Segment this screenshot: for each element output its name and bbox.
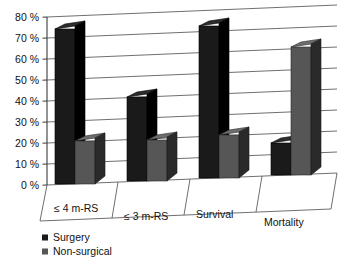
y-tick-label-0: 0 %	[21, 179, 39, 191]
bar-nonsurgical-3	[291, 39, 321, 175]
bar-group-1	[127, 89, 177, 181]
legend-swatch-nonsurgical	[42, 249, 48, 255]
y-tick-label-80: 80 %	[15, 11, 39, 23]
y-tick-label-70: 70 %	[15, 32, 39, 44]
bar-front-face	[55, 29, 75, 184]
bar-front-face	[127, 97, 147, 181]
bar-group-2	[199, 18, 249, 178]
bar-group-3	[271, 39, 321, 175]
category-label-1: ≤ 3 m-RS	[124, 210, 168, 222]
legend-label-nonsurgical: Non-surgical	[53, 245, 112, 257]
legend-item-nonsurgical[interactable]: Non-surgical	[42, 245, 112, 257]
y-axis	[43, 17, 48, 185]
bar-front-face	[291, 47, 311, 175]
bar-front-face	[219, 135, 239, 178]
y-tick-label-60: 60 %	[15, 53, 39, 65]
chart-legend: Surgery Non-surgical	[42, 231, 112, 257]
gridline-70	[47, 26, 337, 38]
y-axis-labels: 80 % 70 % 60 % 50 % 40 % 30 % 20 % 10 % …	[15, 11, 39, 191]
bar-side-face	[239, 127, 249, 178]
legend-swatch-surgery	[42, 235, 48, 241]
y-tick-label-20: 20 %	[15, 137, 39, 149]
y-tick-label-40: 40 %	[15, 95, 39, 107]
legend-item-surgery[interactable]: Surgery	[42, 231, 91, 243]
category-label-0: ≤ 4 m-RS	[54, 202, 98, 214]
bar-chart-3d: 80 % 70 % 60 % 50 % 40 % 30 % 20 % 10 % …	[0, 0, 343, 265]
bar-nonsurgical-1	[147, 132, 177, 181]
bar-front-face	[75, 141, 95, 184]
bar-side-face	[95, 133, 105, 184]
bar-front-face	[271, 143, 291, 175]
y-tick-label-30: 30 %	[15, 116, 39, 128]
y-tick-label-10: 10 %	[15, 158, 39, 170]
bar-side-face	[311, 39, 321, 175]
category-label-3: Mortality	[264, 216, 304, 228]
bar-front-face	[147, 140, 167, 181]
legend-label-surgery: Surgery	[53, 231, 91, 243]
bar-group-0	[55, 21, 105, 184]
chart-container: 80 % 70 % 60 % 50 % 40 % 30 % 20 % 10 % …	[0, 0, 343, 265]
bar-side-face	[167, 132, 177, 181]
gridline-80	[47, 5, 337, 17]
bar-front-face	[199, 26, 219, 178]
category-label-2: Survival	[196, 208, 233, 220]
y-tick-label-50: 50 %	[15, 74, 39, 86]
